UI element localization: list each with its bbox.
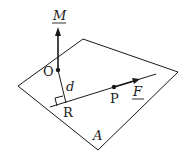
label-d: d xyxy=(66,79,74,94)
label-M: M xyxy=(52,8,67,23)
point-O xyxy=(56,68,60,72)
label-P: P xyxy=(110,91,119,106)
moment-arrowhead-icon xyxy=(55,27,61,36)
label-F: F xyxy=(132,84,143,99)
label-R: R xyxy=(63,105,74,120)
distance-line xyxy=(58,70,66,103)
force-vector xyxy=(114,81,134,87)
diagram-canvas: M O d R P F A xyxy=(0,0,190,159)
point-P xyxy=(112,85,116,89)
label-O: O xyxy=(43,64,54,79)
label-A: A xyxy=(92,128,102,143)
